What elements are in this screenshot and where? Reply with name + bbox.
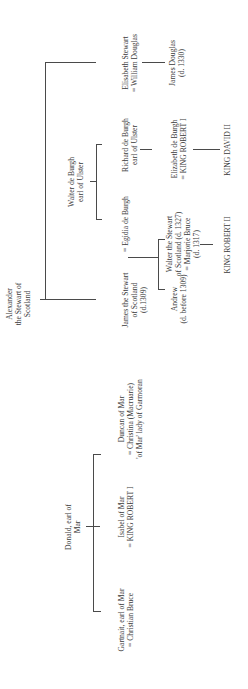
donald-descent-bracket <box>93 455 94 612</box>
node-james-stewart: James the Stewart of Scotland (d.1309) <box>121 273 148 328</box>
to-richard-line <box>96 144 102 145</box>
node-alexander: Alexander the Stewart of Scotland <box>5 283 32 326</box>
node-donald: Donald, earl of Mar <box>64 504 82 550</box>
node-king-robert-ii: KING ROBERT II <box>223 216 232 273</box>
james-egidia-descent <box>128 257 158 258</box>
node-king-david-ii: KING DAVID II <box>223 124 232 175</box>
walter-de-burgh-bracket <box>96 145 97 220</box>
node-duncan: Duncan of Mar = Christina (Macruarie) 'o… <box>117 379 144 459</box>
to-gartnait-line <box>93 611 101 612</box>
node-isabel: Isabel of Mar = KING ROBERT I <box>117 487 135 548</box>
node-andrew: Andrew (d. before 1309) <box>170 274 188 323</box>
alexander-to-elisabeth-line <box>45 62 96 63</box>
alexander-to-james-line <box>45 299 96 300</box>
donald-stub <box>86 526 100 527</box>
to-duncan-line <box>93 454 101 455</box>
node-walter-stewart: Walter the Stewart of Scotland (d. 1327)… <box>165 212 201 277</box>
to-walter-stewart-line <box>158 239 165 240</box>
node-walter-de-burgh: Walter de Burgh earl of Ulster <box>67 157 85 207</box>
node-elizabeth-de-burgh: Elizabeth de Burgh = KING ROBERT I <box>170 119 188 180</box>
richard-to-elizabeth-line <box>140 149 152 150</box>
walter-de-burgh-stub <box>90 181 96 182</box>
node-egidia: = Egidia de Burgh <box>121 196 130 252</box>
james-children-bracket <box>158 240 159 290</box>
node-james-douglas: James Douglas (d. 1330) <box>168 40 186 86</box>
walter-to-robert-ii-line <box>200 244 213 245</box>
elizabeth-to-david-line <box>193 149 220 150</box>
to-andrew-line <box>158 289 165 290</box>
family-tree-diagram: Alexander the Stewart of Scotland Walter… <box>0 0 248 689</box>
to-egidia-line <box>96 219 102 220</box>
node-richard: Richard de Burgh earl of Ulster <box>121 118 139 172</box>
alexander-descent-line <box>45 63 46 300</box>
elisabeth-to-james-douglas-line <box>142 62 165 63</box>
node-elisabeth-stewart: Elisabeth Stewart = William Douglas <box>121 34 139 92</box>
node-gartnait: Gartnait, earl of Mar = Christian Bruce <box>117 589 135 652</box>
